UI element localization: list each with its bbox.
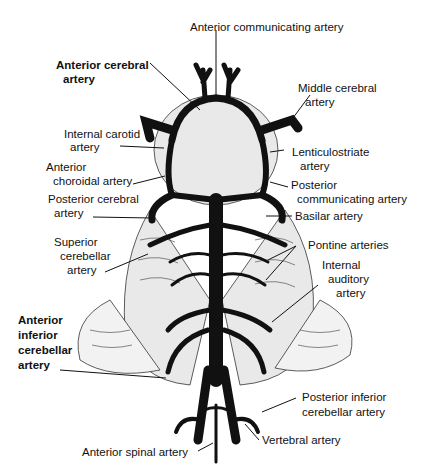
label-basilar-artery: Basilar artery (295, 209, 363, 223)
label-superior-cerebellar-artery-line2: cerebellar (60, 249, 111, 263)
label-posterior-inferior-cerebellar-artery-line2: cerebellar artery (302, 405, 385, 419)
label-anterior-communicating-artery: Anterior communicating artery (190, 20, 343, 34)
label-anterior-choroidal-artery-line2: choroidal artery (53, 174, 132, 188)
label-lenticulostriate-artery-line2: artery (300, 159, 329, 173)
label-anterior-inferior-cerebellar-artery-line1: Anterior (18, 313, 63, 327)
label-internal-auditory-artery-line2: auditory (328, 272, 369, 286)
label-pontine-arteries: Pontine arteries (308, 238, 389, 252)
label-internal-carotid-artery-line2: artery (70, 140, 99, 154)
label-posterior-communicating-artery-line1: Posterior (291, 178, 337, 192)
label-internal-auditory-artery-line1: Internal (322, 258, 360, 272)
label-posterior-cerebral-artery-line2: artery (54, 206, 83, 220)
label-posterior-inferior-cerebellar-artery-line1: Posterior inferior (302, 390, 386, 404)
label-posterior-cerebral-artery-line1: Posterior cerebral (48, 192, 139, 206)
label-anterior-inferior-cerebellar-artery-line4: artery (18, 358, 50, 372)
label-anterior-choroidal-artery-line1: Anterior (46, 160, 86, 174)
label-middle-cerebral-artery-line2: artery (305, 95, 334, 109)
label-internal-auditory-artery-line3: artery (336, 286, 365, 300)
label-anterior-inferior-cerebellar-artery-line2: inferior (18, 328, 58, 342)
label-anterior-inferior-cerebellar-artery-line3: cerebellar (18, 343, 72, 357)
label-middle-cerebral-artery-line1: Middle cerebral (298, 81, 377, 95)
label-posterior-communicating-artery-line2: communicating artery (297, 192, 407, 206)
label-internal-carotid-artery-line1: Internal carotid (64, 127, 140, 141)
label-anterior-cerebral-artery-line1: Anterior cerebral (56, 58, 149, 72)
label-anterior-spinal-artery: Anterior spinal artery (82, 445, 188, 459)
brain-arteries-diagram: Anterior communicating artery Anterior c… (0, 0, 425, 474)
label-lenticulostriate-artery-line1: Lenticulostriate (292, 145, 369, 159)
label-vertebral-artery: Vertebral artery (262, 433, 341, 447)
label-anterior-cerebral-artery-line2: artery (63, 72, 95, 86)
label-superior-cerebellar-artery-line1: Superior (54, 235, 97, 249)
label-superior-cerebellar-artery-line3: artery (67, 263, 96, 277)
